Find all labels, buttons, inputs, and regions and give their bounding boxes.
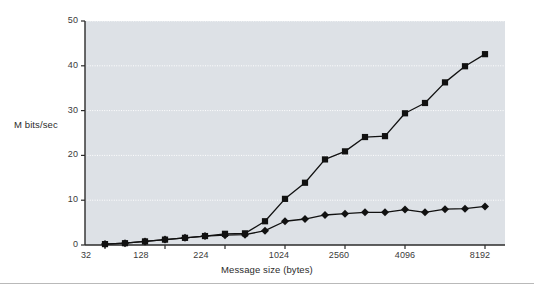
chart-figure: M bits/sec Message size (bytes) 50 40 30…	[0, 0, 534, 288]
plot-background	[85, 21, 505, 245]
footer-rule	[0, 283, 534, 284]
plot-canvas	[0, 0, 534, 288]
